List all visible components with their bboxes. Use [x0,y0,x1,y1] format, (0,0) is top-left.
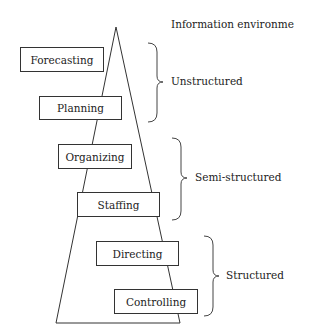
box-staffing: Staffing [77,192,160,217]
box-forecasting: Forecasting [20,47,104,72]
brace-structured [204,236,219,316]
label-semi-structured: Semi-structured [195,171,281,183]
diagram-title: Information environment [171,18,294,30]
box-controlling: Controlling [114,289,198,314]
box-organizing: Organizing [58,144,132,169]
brace-unstructured [148,43,163,122]
brace-semi-structured [172,138,187,220]
box-planning: Planning [39,96,122,120]
label-unstructured: Unstructured [171,75,243,87]
label-structured: Structured [226,269,284,281]
box-directing: Directing [96,241,179,266]
